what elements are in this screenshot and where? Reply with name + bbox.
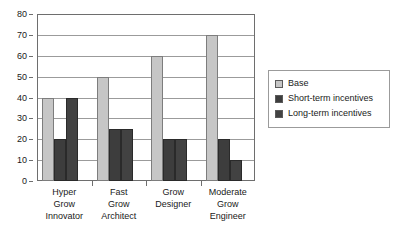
y-tick-mark <box>29 56 33 57</box>
x-category-label-line: Grow <box>146 186 201 198</box>
y-tick-label: 60 <box>17 51 27 60</box>
legend-swatch-icon <box>275 95 283 103</box>
bar-group <box>146 14 201 181</box>
y-tick-label: 40 <box>17 93 27 102</box>
y-tick-mark <box>29 98 33 99</box>
bar-group <box>92 14 147 181</box>
legend-swatch-icon <box>275 80 283 88</box>
y-axis: 01020304050607080 <box>0 14 33 181</box>
y-tick-label: 50 <box>17 72 27 81</box>
bar <box>54 139 66 181</box>
legend-item[interactable]: Short-term incentives <box>275 91 383 106</box>
bar <box>175 139 187 181</box>
x-category-label-line: Grow <box>201 198 256 210</box>
x-category-label-line: Hyper <box>37 186 92 198</box>
bar <box>163 139 175 181</box>
legend-swatch-icon <box>275 110 283 118</box>
legend-item[interactable]: Long-term incentives <box>275 106 383 121</box>
bar-group <box>201 14 256 181</box>
x-category-label: HyperGrowInnovator <box>37 186 92 222</box>
bars-layer <box>37 14 255 181</box>
legend-label: Base <box>288 79 309 88</box>
y-tick-mark <box>29 35 33 36</box>
chart-legend: BaseShort-term incentivesLong-term incen… <box>268 70 390 128</box>
bar-group <box>37 14 92 181</box>
y-tick-label: 30 <box>17 114 27 123</box>
y-tick-label: 80 <box>17 10 27 19</box>
x-category-label-line: Grow <box>92 198 147 210</box>
y-tick-mark <box>29 118 33 119</box>
y-tick-mark <box>29 181 33 182</box>
bar-chart: 01020304050607080 HyperGrowInnovatorFast… <box>0 0 397 237</box>
bar <box>42 98 54 182</box>
x-category-label-line: Architect <box>92 210 147 222</box>
x-category-label: FastGrowArchitect <box>92 186 147 222</box>
x-category-label-line: Grow <box>37 198 92 210</box>
bar <box>230 160 242 181</box>
bar <box>66 98 78 182</box>
y-tick-label: 0 <box>22 177 27 186</box>
y-tick-mark <box>29 160 33 161</box>
legend-label: Short-term incentives <box>288 94 373 103</box>
x-category-label-line: Engineer <box>201 210 256 222</box>
x-category-label: GrowDesigner <box>146 186 201 210</box>
x-category-label: ModerateGrowEngineer <box>201 186 256 222</box>
y-tick-mark <box>29 77 33 78</box>
bar <box>151 56 163 181</box>
legend-label: Long-term incentives <box>288 109 372 118</box>
x-axis-labels: HyperGrowInnovatorFastGrowArchitectGrowD… <box>37 186 255 232</box>
x-category-label-line: Fast <box>92 186 147 198</box>
bar <box>218 139 230 181</box>
bar <box>97 77 109 181</box>
x-category-label-line: Innovator <box>37 210 92 222</box>
legend-item[interactable]: Base <box>275 76 383 91</box>
x-category-label-line: Designer <box>146 198 201 210</box>
y-tick-label: 70 <box>17 30 27 39</box>
x-category-label-line: Moderate <box>201 186 256 198</box>
y-tick-mark <box>29 139 33 140</box>
bar <box>206 35 218 181</box>
bar <box>109 129 121 181</box>
y-tick-label: 10 <box>17 156 27 165</box>
y-tick-mark <box>29 14 33 15</box>
y-tick-label: 20 <box>17 135 27 144</box>
bar <box>121 129 133 181</box>
